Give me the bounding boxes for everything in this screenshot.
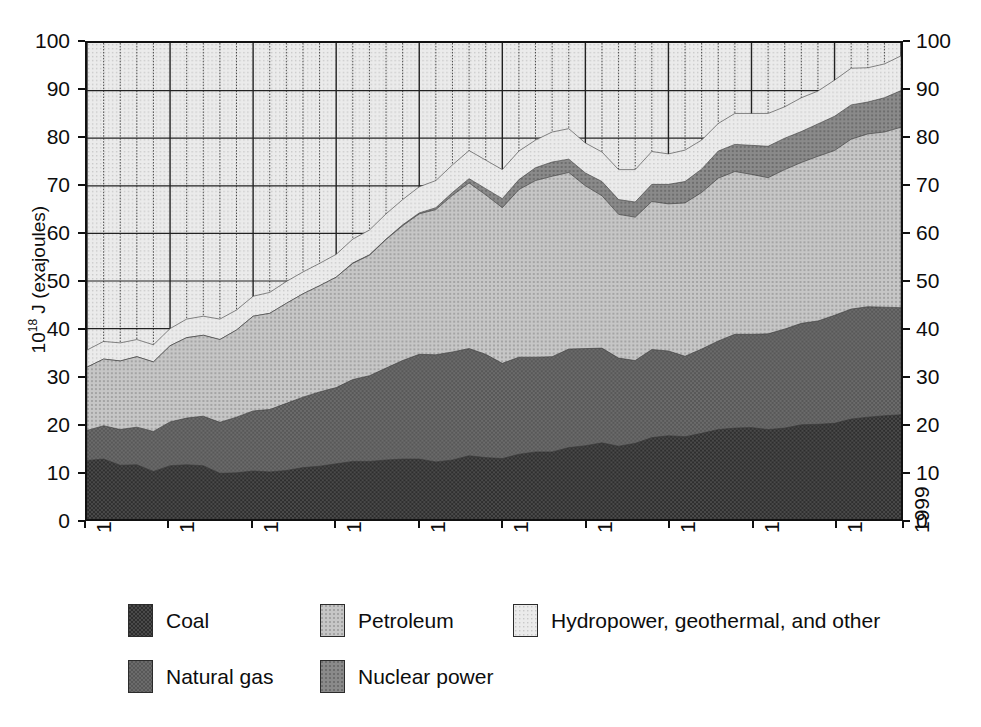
- y-tick-label-right: 30: [916, 366, 939, 387]
- y-tick-mark-right: [903, 136, 910, 138]
- x-tick-mark: [585, 521, 587, 528]
- y-tick-mark-left: [78, 424, 85, 426]
- y-tick-label-left: 70: [8, 174, 70, 195]
- y-tick-mark-right: [903, 520, 910, 522]
- y-tick-label-left: 40: [8, 318, 70, 339]
- legend-item-petroleum[interactable]: Petroleum: [320, 604, 454, 637]
- y-tick-label-left: 90: [8, 78, 70, 99]
- y-tick-mark-left: [78, 184, 85, 186]
- x-tick-mark: [752, 521, 754, 528]
- y-tick-mark-right: [903, 472, 910, 474]
- y-tick-mark-left: [78, 232, 85, 234]
- x-tick-mark: [418, 521, 420, 528]
- x-tick-label: 1999: [911, 486, 932, 533]
- y-tick-mark-right: [903, 232, 910, 234]
- y-tick-label-right: 60: [916, 222, 939, 243]
- legend-swatch-coal: [128, 604, 153, 637]
- legend-label-petroleum: Petroleum: [358, 610, 454, 631]
- y-tick-label-left: 10: [8, 462, 70, 483]
- plot-clip: [87, 43, 901, 519]
- y-tick-label-left: 20: [8, 414, 70, 435]
- y-tick-mark-right: [903, 88, 910, 90]
- x-tick-mark: [668, 521, 670, 528]
- x-tick-mark: [835, 521, 837, 528]
- legend-item-hydro[interactable]: Hydropower, geothermal, and other: [513, 604, 880, 637]
- legend-label-coal: Coal: [166, 610, 209, 631]
- y-tick-label-left: 100: [8, 30, 70, 51]
- y-tick-mark-left: [78, 136, 85, 138]
- stacked-area-plot: [87, 43, 901, 519]
- x-tick-mark: [84, 521, 86, 528]
- y-tick-label-right: 10: [916, 462, 939, 483]
- legend-swatch-natural-gas: [128, 660, 153, 693]
- y-tick-label-right: 50: [916, 270, 939, 291]
- y-tick-mark-left: [78, 40, 85, 42]
- y-tick-mark-left: [78, 472, 85, 474]
- y-tick-mark-left: [78, 280, 85, 282]
- legend-label-hydro: Hydropower, geothermal, and other: [551, 610, 880, 631]
- x-tick-mark: [501, 521, 503, 528]
- y-tick-label-right: 40: [916, 318, 939, 339]
- x-tick-mark: [902, 521, 904, 528]
- y-tick-label-right: 70: [916, 174, 939, 195]
- y-tick-mark-right: [903, 376, 910, 378]
- y-tick-label-right: 80: [916, 126, 939, 147]
- y-tick-label-left: 30: [8, 366, 70, 387]
- legend-label-natural-gas: Natural gas: [166, 666, 273, 687]
- energy-consumption-area-chart: 1018 J (exajoules) 010203040506070809010…: [0, 0, 981, 727]
- y-tick-mark-left: [78, 88, 85, 90]
- x-tick-mark: [251, 521, 253, 528]
- legend-swatch-nuclear: [320, 660, 345, 693]
- x-tick-mark: [334, 521, 336, 528]
- y-tick-mark-right: [903, 424, 910, 426]
- legend-label-nuclear: Nuclear power: [358, 666, 493, 687]
- y-tick-mark-left: [78, 328, 85, 330]
- legend-swatch-hydro: [513, 604, 538, 637]
- y-tick-label-left: 0: [8, 510, 70, 531]
- plot-area: [85, 41, 903, 521]
- y-tick-label-left: 60: [8, 222, 70, 243]
- x-tick-mark: [167, 521, 169, 528]
- y-tick-mark-right: [903, 40, 910, 42]
- y-tick-mark-right: [903, 280, 910, 282]
- y-tick-mark-left: [78, 376, 85, 378]
- legend-item-natural-gas[interactable]: Natural gas: [128, 660, 273, 693]
- y-tick-label-left: 80: [8, 126, 70, 147]
- legend-item-nuclear[interactable]: Nuclear power: [320, 660, 493, 693]
- y-tick-mark-right: [903, 184, 910, 186]
- y-tick-mark-right: [903, 328, 910, 330]
- chart-legend: CoalPetroleumHydropower, geothermal, and…: [128, 604, 888, 716]
- y-tick-label-right: 100: [916, 30, 951, 51]
- y-tick-label-right: 20: [916, 414, 939, 435]
- legend-swatch-petroleum: [320, 604, 345, 637]
- y-tick-label-left: 50: [8, 270, 70, 291]
- y-tick-label-right: 90: [916, 78, 939, 99]
- legend-item-coal[interactable]: Coal: [128, 604, 209, 637]
